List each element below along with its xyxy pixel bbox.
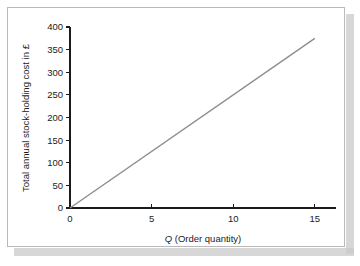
chart-data-line xyxy=(70,38,315,208)
card-shadow-right xyxy=(346,14,354,254)
y-axis-tick-label: 200 xyxy=(47,112,63,123)
y-axis-tick-label: 100 xyxy=(47,157,63,168)
y-axis-tick-label: 250 xyxy=(47,89,63,100)
y-axis-tick-label: 50 xyxy=(52,180,63,191)
x-axis-tick-label: 5 xyxy=(149,213,154,224)
x-axis-title-text: (Order quantity) xyxy=(172,233,241,244)
y-axis-tick-label: 0 xyxy=(58,202,63,213)
y-axis-tick-label: 350 xyxy=(47,44,63,55)
chart-plot-area: 050100150200250300350400 051015 Total an… xyxy=(8,8,346,248)
x-axis-tick-label: 15 xyxy=(309,213,320,224)
y-axis-ticks: 050100150200250300350400 xyxy=(47,21,70,213)
card-shadow-bottom xyxy=(14,248,354,256)
y-axis-tick-label: 300 xyxy=(47,67,63,78)
y-axis-title: Total annual stock-holding cost in £ xyxy=(20,43,31,192)
x-axis-ticks: 051015 xyxy=(67,204,320,224)
chart-figure-card: 050100150200250300350400 051015 Total an… xyxy=(7,7,345,247)
x-axis-tick-label: 10 xyxy=(228,213,239,224)
x-axis-title: Q (Order quantity) xyxy=(165,233,242,244)
chart-series-group xyxy=(70,38,315,208)
y-axis-tick-label: 400 xyxy=(47,21,63,32)
y-axis-tick-label: 150 xyxy=(47,135,63,146)
x-axis-tick-label: 0 xyxy=(67,213,72,224)
line-chart-svg: 050100150200250300350400 051015 Total an… xyxy=(8,8,346,248)
